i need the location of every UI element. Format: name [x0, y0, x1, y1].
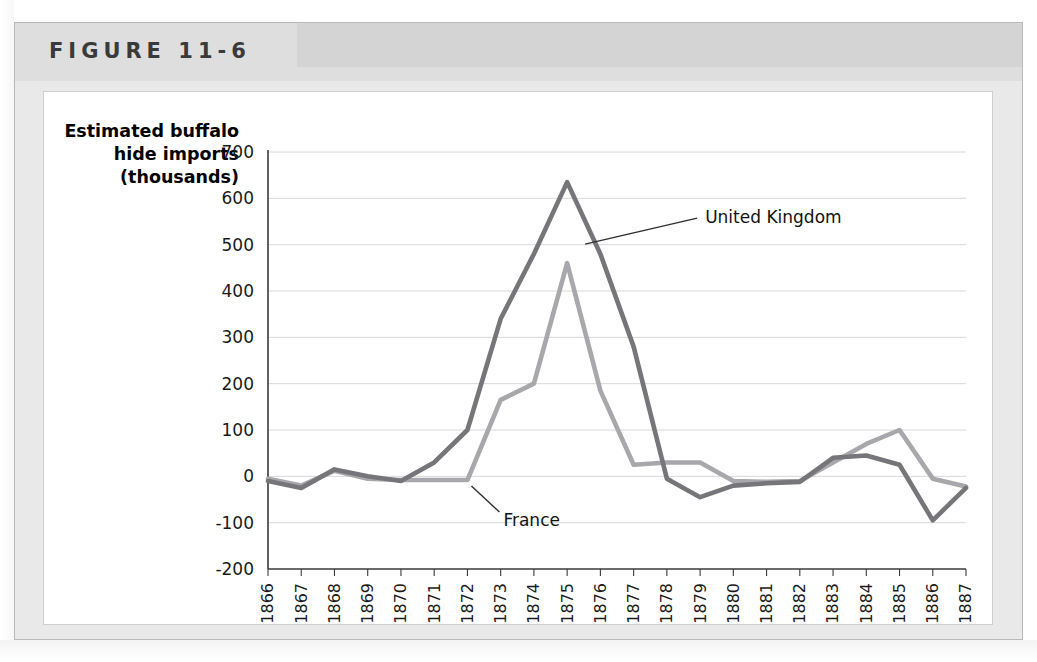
annotation-label-france: France: [503, 510, 560, 530]
x-tick-label: 1869: [358, 583, 377, 624]
y-tick-label: 400: [222, 281, 254, 301]
annotation-label-united-kingdom: United Kingdom: [705, 207, 841, 227]
x-tick-label: 1887: [956, 583, 975, 624]
x-tick-label: 1872: [458, 583, 477, 624]
y-tick-label: 300: [222, 327, 254, 347]
x-tick-label: 1884: [857, 583, 876, 624]
annotation-leader-line: [585, 218, 697, 244]
page-root: FIGURE 11-6 Estimated buffalo hide impor…: [0, 0, 1037, 662]
figure-header-band-highlight: [297, 23, 1022, 67]
x-tick-label: 1881: [757, 583, 776, 624]
x-tick-label: 1875: [558, 583, 577, 624]
x-tick-label: 1877: [624, 583, 643, 624]
x-tick-label: 1873: [491, 583, 510, 624]
x-tick-label: 1871: [425, 583, 444, 624]
x-tick-label: 1885: [890, 583, 909, 624]
annotation-leader-line: [471, 486, 499, 512]
y-tick-label: 200: [222, 374, 254, 394]
x-tick-label: 1883: [823, 583, 842, 624]
x-tick-label: 1876: [591, 583, 610, 624]
data-series-group: [268, 182, 966, 520]
scan-left-shading: [0, 0, 14, 662]
y-tick-label: -100: [215, 513, 254, 533]
gridlines-group: [268, 152, 966, 569]
x-axis-tick-labels: 1866186718681869187018711872187318741875…: [258, 583, 975, 624]
x-tick-label: 1867: [292, 583, 311, 624]
y-tick-label: 0: [243, 466, 254, 486]
figure-header-band: FIGURE 11-6: [15, 23, 1022, 81]
x-tick-label: 1878: [657, 583, 676, 624]
x-tick-label: 1866: [258, 583, 277, 624]
y-tick-label: 100: [222, 420, 254, 440]
chart-card: Estimated buffalo hide imports (thousand…: [43, 91, 993, 625]
line-chart-svg: 7006005004003002001000-100-200 186618671…: [44, 92, 994, 626]
x-tick-label: 1868: [325, 583, 344, 624]
y-tick-label: -200: [215, 559, 254, 579]
x-tick-label: 1879: [691, 583, 710, 624]
x-tick-label: 1880: [724, 583, 743, 624]
y-tick-label: 500: [222, 235, 254, 255]
y-tick-label: 600: [222, 188, 254, 208]
plot-area: 7006005004003002001000-100-200 186618671…: [44, 92, 994, 626]
figure-number-label: FIGURE 11-6: [49, 39, 251, 63]
axis-lines-group: [268, 150, 966, 576]
y-tick-label: 700: [222, 142, 254, 162]
x-tick-label: 1882: [790, 583, 809, 624]
figure-container: FIGURE 11-6 Estimated buffalo hide impor…: [14, 22, 1023, 640]
series-line-united-kingdom: [268, 182, 966, 520]
scan-bottom-shading: [0, 640, 1037, 662]
x-tick-label: 1870: [391, 583, 410, 624]
x-tick-label: 1874: [524, 583, 543, 624]
y-axis-tick-labels: 7006005004003002001000-100-200: [215, 142, 254, 579]
x-tick-label: 1886: [923, 583, 942, 624]
